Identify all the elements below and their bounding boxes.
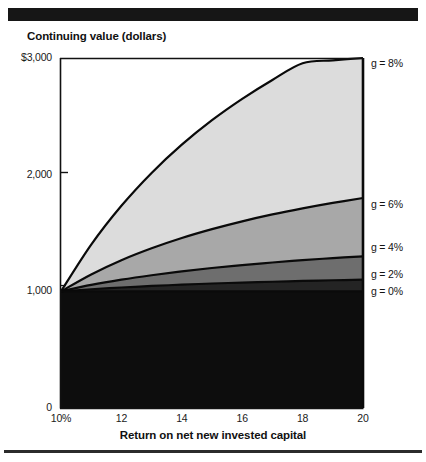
legend-label-4pct: g = 4%	[371, 241, 403, 253]
area-chart-plot	[0, 0, 426, 462]
x-tick-label-18: 18	[297, 412, 308, 424]
x-tick-label-16: 16	[237, 412, 248, 424]
y-tick-label-3000: $3,000	[0, 51, 52, 63]
legend-label-0pct: g = 0%	[371, 285, 403, 297]
x-tick-label-20: 20	[357, 412, 368, 424]
y-tick-label-0: 0	[0, 401, 52, 413]
area-band-0pct	[61, 291, 363, 408]
legend-label-2pct: g = 2%	[371, 268, 403, 280]
y-tick-label-1000: 1,000	[0, 284, 52, 296]
figure-container: Continuing value (dollars) $3,0002,0001,…	[0, 0, 426, 462]
area-bands-group	[61, 58, 363, 408]
x-tick-label-14: 14	[176, 412, 187, 424]
legend-label-8pct: g = 8%	[371, 57, 403, 69]
x-tick-label-12: 12	[116, 412, 127, 424]
x-tick-label-10: 10%	[51, 412, 71, 424]
x-axis-title: Return on net new invested capital	[0, 429, 426, 441]
y-tick-label-2000: 2,000	[0, 168, 52, 180]
legend-label-6pct: g = 6%	[371, 198, 403, 210]
